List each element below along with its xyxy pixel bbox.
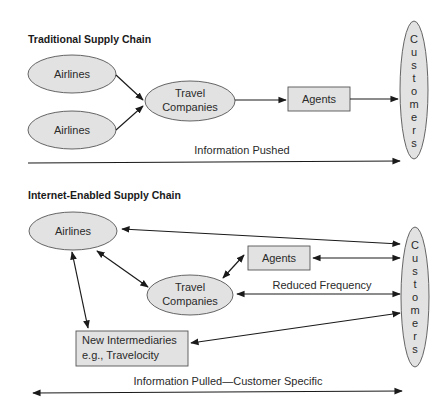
- net-travel-label-1: Travel: [175, 281, 205, 293]
- net-travel-companies-node: Travel Companies: [147, 275, 233, 315]
- trad-travel-companies-node: Travel Companies: [145, 81, 235, 121]
- trad-agents-label: Agents: [302, 93, 337, 105]
- svg-text:o: o: [411, 85, 417, 97]
- net-customers-node: C u s t o m e r s: [401, 227, 429, 367]
- net-agents-node: Agents: [248, 246, 310, 270]
- svg-text:u: u: [412, 252, 418, 264]
- svg-text:s: s: [412, 265, 418, 277]
- net-edge-intermediaries-customers: [191, 313, 400, 343]
- reduced-frequency-label: Reduced Frequency: [272, 279, 372, 291]
- svg-text:e: e: [411, 111, 417, 123]
- svg-text:r: r: [412, 124, 416, 136]
- trad-travel-label-2: Companies: [162, 101, 218, 113]
- net-agents-label: Agents: [262, 252, 297, 264]
- supply-chain-diagram: Traditional Supply Chain Airlines Airlin…: [0, 0, 446, 413]
- net-edge-airlines-customers: [122, 229, 400, 244]
- svg-text:s: s: [411, 59, 417, 71]
- svg-text:m: m: [409, 98, 418, 110]
- svg-text:u: u: [411, 46, 417, 58]
- svg-text:m: m: [410, 304, 419, 316]
- svg-text:t: t: [413, 278, 416, 290]
- trad-airlines-2-label: Airlines: [54, 124, 91, 136]
- traditional-title: Traditional Supply Chain: [28, 33, 151, 45]
- trad-edge-airlines1-travel: [116, 75, 143, 100]
- net-airlines-node: Airlines: [29, 212, 117, 250]
- information-pulled-arrow: [33, 391, 402, 393]
- svg-text:s: s: [412, 343, 418, 355]
- svg-text:C: C: [411, 239, 419, 251]
- svg-text:o: o: [412, 291, 418, 303]
- trad-travel-label-1: Travel: [175, 87, 205, 99]
- net-edge-airlines-travel: [97, 251, 148, 287]
- net-intermediaries-node: New Intermediaries e.g., Travelocity: [76, 331, 188, 366]
- trad-agents-node: Agents: [288, 87, 350, 111]
- information-pushed-label: Information Pushed: [194, 144, 289, 156]
- net-intermediaries-label-1: New Intermediaries: [82, 334, 177, 346]
- net-airlines-label: Airlines: [55, 225, 92, 237]
- net-edge-airlines-intermediaries: [72, 252, 88, 328]
- svg-text:r: r: [413, 330, 417, 342]
- net-edge-travel-agents: [223, 255, 244, 278]
- trad-edge-airlines2-travel: [116, 106, 143, 130]
- svg-text:t: t: [412, 72, 415, 84]
- svg-text:C: C: [410, 33, 418, 45]
- information-pulled-label: Information Pulled—Customer Specific: [134, 375, 323, 387]
- information-pushed-arrow: [28, 161, 400, 163]
- net-travel-label-2: Companies: [162, 295, 218, 307]
- internet-title: Internet-Enabled Supply Chain: [28, 189, 181, 201]
- svg-text:s: s: [411, 137, 417, 149]
- trad-airlines-1-node: Airlines: [28, 55, 116, 93]
- svg-text:e: e: [412, 317, 418, 329]
- net-intermediaries-label-2: e.g., Travelocity: [82, 349, 160, 361]
- trad-customers-node: C u s t o m e r s: [400, 21, 428, 159]
- trad-airlines-1-label: Airlines: [54, 68, 91, 80]
- trad-airlines-2-node: Airlines: [28, 111, 116, 149]
